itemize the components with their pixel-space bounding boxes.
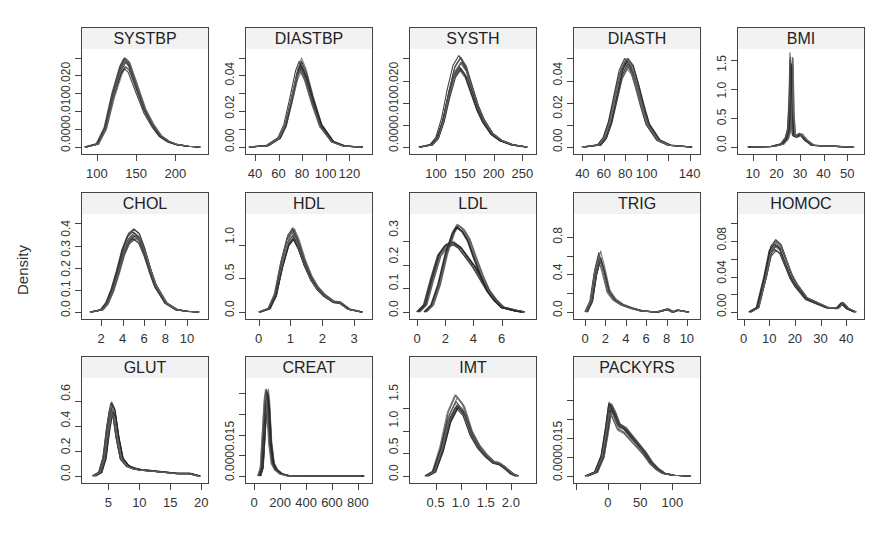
y-tick-label: 0.00 <box>715 294 729 317</box>
x-tick-label: 10 <box>746 166 760 181</box>
x-tick <box>436 155 437 161</box>
plot-area <box>245 49 373 155</box>
y-tick <box>239 147 245 148</box>
x-tick-label: 150 <box>125 166 147 181</box>
y-tick-labels: 0.0000.015 <box>223 421 237 481</box>
x-tick-label: 0 <box>604 495 611 510</box>
plot-area <box>409 49 537 155</box>
y-tick-label: 0.5 <box>387 438 401 455</box>
y-tick <box>75 290 81 291</box>
x-tick-label: 10 <box>132 495 146 510</box>
x-tick <box>769 320 770 326</box>
x-tick-label: 2 <box>97 331 104 346</box>
y-tick <box>75 75 81 76</box>
y-tick <box>75 223 81 224</box>
x-tick-label: 1.5 <box>477 495 495 510</box>
y-tick-labels: 0.00.20.40.6 <box>59 384 73 481</box>
x-tick-label: 80 <box>618 166 632 181</box>
x-tick <box>690 155 691 161</box>
x-tick-label: 400 <box>295 495 317 510</box>
density-curves <box>574 378 700 483</box>
y-tick <box>403 58 409 59</box>
y-tick-label: 0.2 <box>59 260 73 277</box>
plot-area <box>245 378 373 484</box>
x-tick <box>280 484 281 490</box>
y-tick <box>75 129 81 130</box>
x-tick-label: 40 <box>575 166 589 181</box>
x-tick <box>97 155 98 161</box>
y-tick <box>731 294 737 295</box>
y-tick <box>239 435 245 436</box>
x-tick <box>259 320 260 326</box>
x-tick <box>326 155 327 161</box>
x-tick-label: 8 <box>663 331 670 346</box>
x-tick-label: 2.0 <box>502 495 520 510</box>
x-tick <box>605 320 606 326</box>
density-curves <box>82 49 208 154</box>
y-tick-label: 0.4 <box>551 264 565 281</box>
y-tick <box>75 451 81 452</box>
x-tick <box>687 320 688 326</box>
x-tick-label: 10 <box>762 331 776 346</box>
y-tick-labels: 0.0000.015 <box>551 421 565 481</box>
y-tick-label: 0.4 <box>59 411 73 428</box>
y-tick <box>567 400 573 401</box>
y-tick-label: 0.04 <box>551 62 565 85</box>
x-tick-label: 15 <box>163 495 177 510</box>
x-tick-label: 100 <box>86 166 108 181</box>
y-tick-label: 0.00 <box>223 129 237 152</box>
x-tick <box>170 484 171 490</box>
x-tick <box>461 484 462 490</box>
x-tick <box>108 484 109 490</box>
y-tick-labels: 0.00.40.8 <box>551 227 565 317</box>
x-tick <box>604 155 605 161</box>
density-curves <box>738 49 864 154</box>
panel-strip-title: SYSTH <box>409 27 537 50</box>
y-tick <box>75 246 81 247</box>
y-tick-labels: 0.000.020.04 <box>551 62 565 152</box>
x-tick-label: 0 <box>255 331 262 346</box>
panel-strip-title: DIASTBP <box>245 27 373 50</box>
y-tick <box>75 401 81 402</box>
y-tick <box>75 111 81 112</box>
y-tick-label: 0.3 <box>387 220 401 237</box>
panel-strip-title: TRIG <box>573 192 701 215</box>
y-tick-label: 0.020 <box>387 62 401 92</box>
y-tick-label: 0.0 <box>715 135 729 152</box>
x-tick <box>608 484 609 490</box>
x-tick-label: 150 <box>454 166 476 181</box>
x-tick <box>302 155 303 161</box>
density-curves <box>82 378 208 483</box>
y-tick <box>567 476 573 477</box>
x-tick <box>667 320 668 326</box>
y-tick-labels: 0.0000.0100.020 <box>387 62 401 152</box>
x-tick <box>187 320 188 326</box>
x-tick-label: 200 <box>269 495 291 510</box>
x-tick <box>646 320 647 326</box>
panel-strip-title: CHOL <box>81 192 209 215</box>
x-tick <box>502 320 503 326</box>
x-tick <box>136 155 137 161</box>
x-tick <box>626 320 627 326</box>
y-tick <box>731 277 737 278</box>
y-tick <box>75 476 81 477</box>
y-tick <box>567 125 573 126</box>
x-tick-label: 120 <box>338 166 360 181</box>
x-tick <box>582 155 583 161</box>
y-tick <box>75 268 81 269</box>
y-tick-label: 0.000 <box>59 122 73 152</box>
x-tick-label: 800 <box>347 495 369 510</box>
y-tick-label: 0.00 <box>551 129 565 152</box>
x-tick <box>511 484 512 490</box>
panel-strip-title: HDL <box>245 192 373 215</box>
y-tick-labels: 0.000.020.04 <box>223 62 237 152</box>
y-tick <box>403 125 409 126</box>
x-tick <box>354 320 355 326</box>
y-tick <box>731 223 737 224</box>
density-curves <box>410 214 536 319</box>
x-tick <box>279 155 280 161</box>
y-tick <box>403 241 409 242</box>
y-tick-label: 0.0 <box>223 300 237 317</box>
plot-area <box>573 214 701 320</box>
panel-strip-title: IMT <box>409 356 537 379</box>
